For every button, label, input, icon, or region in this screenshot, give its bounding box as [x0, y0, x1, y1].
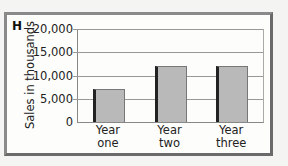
y-tick-label: 5,000 — [13, 92, 73, 106]
bar — [216, 66, 248, 122]
x-tick-label: Yearthree — [206, 124, 256, 150]
y-tick-label: 10,000 — [13, 69, 73, 83]
y-tick-label: 15,000 — [13, 45, 73, 59]
y-tick-label: 0 — [13, 115, 73, 129]
gridline — [73, 52, 263, 53]
plot-area — [77, 29, 264, 123]
bar — [155, 66, 187, 122]
x-tick-label: Yeartwo — [145, 124, 195, 150]
y-tick-label: 20,000 — [13, 22, 73, 36]
x-tick-label: Yearone — [83, 124, 133, 150]
gridline — [73, 29, 263, 30]
bar — [93, 89, 125, 122]
